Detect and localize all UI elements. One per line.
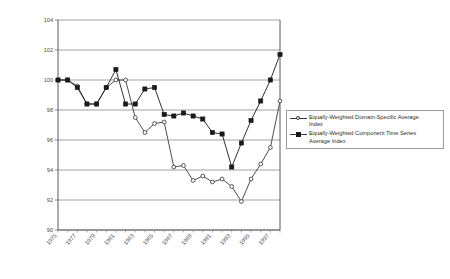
data-point-marker [239, 200, 243, 204]
data-point-marker [278, 99, 282, 103]
x-axis-label-group: 1993 [219, 233, 232, 246]
x-axis-tick-label: 1993 [219, 233, 232, 246]
legend-item-label: Equally-Weighted Domain-Specific Average… [309, 114, 419, 128]
x-axis-label-group: 1979 [84, 233, 97, 246]
data-point-marker [182, 164, 186, 168]
filled-square-marker-icon [290, 130, 307, 139]
data-point-marker [191, 114, 195, 118]
y-axis-tick-label: 94 [47, 167, 53, 173]
x-axis-tick-label: 1997 [257, 233, 270, 246]
data-point-marker [249, 118, 253, 122]
y-axis-tick-label: 96 [47, 137, 53, 143]
x-axis-tick-label: 1975 [45, 233, 58, 246]
data-point-marker [220, 132, 224, 136]
data-point-marker [85, 102, 89, 106]
data-point-marker [268, 78, 272, 82]
data-point-marker [162, 112, 166, 116]
data-point-marker [152, 85, 156, 89]
data-point-marker [133, 116, 137, 120]
data-point-marker [133, 102, 137, 106]
x-axis-label-group: 1985 [141, 233, 154, 246]
data-point-marker [143, 131, 147, 135]
legend-item-label: Equally-Weighted Component Time Series A… [309, 130, 416, 144]
data-point-marker [249, 177, 253, 181]
y-axis-tick-label: 90 [47, 227, 53, 233]
x-axis-label-group: 1989 [180, 233, 193, 246]
x-axis-label-group: 1977 [64, 233, 77, 246]
data-point-marker [201, 174, 205, 178]
x-axis-label-group: 1991 [199, 233, 212, 246]
data-point-marker [259, 99, 263, 103]
x-axis-tick-label: 1991 [199, 233, 212, 246]
y-axis-tick-label: 92 [47, 197, 53, 203]
y-axis-tick-label: 98 [47, 107, 53, 113]
data-point-marker [239, 141, 243, 145]
data-point-marker [268, 146, 272, 150]
data-point-marker [114, 78, 118, 82]
data-point-marker [220, 177, 224, 181]
x-axis-tick-label: 1983 [122, 233, 135, 246]
series-line-domain-specific [58, 80, 280, 202]
legend-item-domain-specific: Equally-Weighted Domain-Specific Average… [290, 114, 439, 128]
series-line-component-time-series [58, 55, 280, 168]
legend-item-component-time-series: Equally-Weighted Component Time Series A… [290, 130, 439, 144]
data-point-marker [211, 180, 215, 184]
x-axis-tick-label: 1979 [84, 233, 97, 246]
data-point-marker [172, 114, 176, 118]
data-point-marker [191, 179, 195, 183]
x-axis-label-group: 1995 [238, 233, 251, 246]
y-axis-tick-label: 100 [44, 77, 53, 83]
x-axis-tick-label: 1995 [238, 233, 251, 246]
data-point-marker [123, 102, 127, 106]
data-point-marker [181, 111, 185, 115]
data-point-marker [259, 162, 263, 166]
data-point-marker [172, 165, 176, 169]
data-point-marker [162, 120, 166, 124]
data-point-marker [153, 122, 157, 126]
x-axis-label-group: 1983 [122, 233, 135, 246]
open-circle-marker-icon [290, 114, 307, 123]
data-point-marker [143, 87, 147, 91]
x-axis-tick-label: 1977 [64, 233, 77, 246]
data-point-marker [95, 102, 99, 106]
data-point-marker [66, 78, 70, 82]
x-axis-label-group: 1975 [45, 233, 58, 246]
data-point-marker [278, 52, 282, 56]
data-point-marker [75, 85, 79, 89]
data-point-marker [230, 165, 234, 169]
x-axis-label-group: 1997 [257, 233, 270, 246]
x-axis-label-group: 1981 [103, 233, 116, 246]
x-axis-tick-label: 1987 [161, 233, 174, 246]
chart-legend: Equally-Weighted Domain-Specific Average… [286, 110, 444, 149]
data-point-marker [201, 117, 205, 121]
x-axis-tick-label: 1989 [180, 233, 193, 246]
x-axis-tick-label: 1985 [141, 233, 154, 246]
x-axis-tick-label: 1981 [103, 233, 116, 246]
y-axis-tick-label: 104 [44, 17, 53, 23]
chart-container: 9092949698100102104197519771979198119831… [0, 0, 450, 279]
data-point-marker [124, 78, 128, 82]
data-point-marker [104, 85, 108, 89]
data-point-marker [210, 130, 214, 134]
data-point-marker [230, 185, 234, 189]
y-axis-tick-label: 102 [44, 47, 53, 53]
x-axis-label-group: 1987 [161, 233, 174, 246]
data-point-marker [114, 67, 118, 71]
data-point-marker [56, 78, 60, 82]
